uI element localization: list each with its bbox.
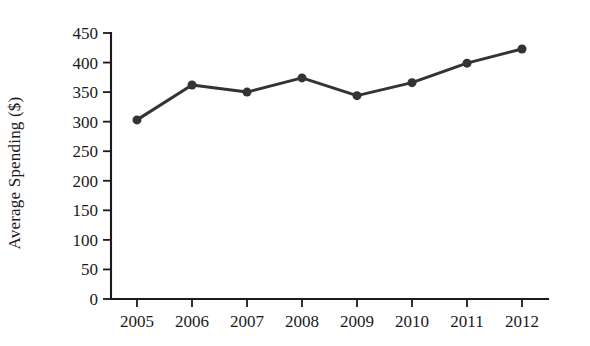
x-tick-label: 2011 [450,312,483,331]
y-tick-label: 50 [81,260,98,279]
y-tick-label: 100 [73,231,99,250]
x-axis-group: 20052006200720082009201020112012 [111,299,548,331]
y-tick-label: 350 [73,83,99,102]
y-tick-label: 250 [73,142,99,161]
y-tick-label: 0 [90,290,99,309]
x-tick-label: 2010 [395,312,429,331]
y-tick-label: 300 [73,113,99,132]
x-tick-label: 2008 [285,312,319,331]
x-tick-label: 2006 [175,312,209,331]
y-tick-label: 400 [73,54,99,73]
data-point-marker [463,59,472,68]
data-point-marker [243,88,252,97]
x-tick-labels: 20052006200720082009201020112012 [120,312,539,331]
data-point-marker [133,115,142,124]
x-tick-label: 2007 [230,312,265,331]
y-tick-marks [103,33,111,299]
series-markers [133,44,527,124]
data-series-group [133,44,527,124]
data-point-marker [518,44,527,53]
y-tick-label: 450 [73,24,99,43]
y-tick-label: 150 [73,201,99,220]
x-tick-label: 2005 [120,312,154,331]
data-point-marker [298,73,307,82]
data-point-marker [408,78,417,87]
chart-plot-area: 050100150200250300350400450 200520062007… [0,0,590,346]
y-tick-labels: 050100150200250300350400450 [73,24,99,309]
line-chart: Average Spending ($) 0501001502002503003… [0,0,590,346]
x-tick-marks [137,299,522,307]
x-tick-label: 2012 [505,312,539,331]
x-tick-label: 2009 [340,312,374,331]
data-point-marker [188,81,197,90]
y-axis-group: 050100150200250300350400450 [73,24,112,309]
data-point-marker [353,91,362,100]
y-tick-label: 200 [73,172,99,191]
